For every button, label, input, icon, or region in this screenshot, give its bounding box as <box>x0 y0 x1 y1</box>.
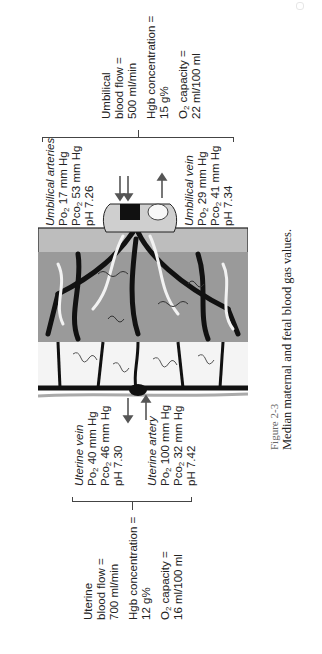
uterine-artery-title: Uterine artery <box>146 405 159 486</box>
fetal-o2-capacity-value: 22 ml/100 ml <box>190 16 203 119</box>
umbilical-summary: Umbilical blood flow = 500 ml/min Hgb co… <box>100 16 203 119</box>
uterine-vein-values: Uterine vein Po2 40 mm Hg Pco2 46 mm Hg … <box>73 405 125 486</box>
fetal-hgb-value: 15 g% <box>158 16 171 119</box>
figure-caption: Figure 2-3 Median maternal and fetal blo… <box>268 229 295 450</box>
figure-page: Umbilical blood flow = 500 ml/min Hgb co… <box>0 0 322 654</box>
uterine-flow-label-2: blood flow = <box>95 517 108 620</box>
maternal-o2-capacity-label: O2 capacity = <box>159 517 172 620</box>
figure-number: Figure 2-3 <box>268 229 280 450</box>
uterine-bracket-stem <box>132 502 133 510</box>
page-corner-mark <box>296 2 304 10</box>
uterine-artery-values: Uterine artery Po2 100 mm Hg Pco2 32 mm … <box>146 405 198 486</box>
uterine-flow-value: 700 ml/min <box>108 517 121 620</box>
umbilical-flow-label-2: blood flow = <box>113 16 126 119</box>
uterine-artery-ph: pH 7.42 <box>185 405 198 486</box>
umbilical-bracket-stem <box>138 130 139 138</box>
uterine-vein-ph: pH 7.30 <box>112 405 125 486</box>
fetal-o2-capacity-label: O2 capacity = <box>177 16 190 119</box>
figure-title: Median maternal and fetal blood gas valu… <box>280 229 295 450</box>
maternal-hgb-value: 12 g% <box>140 517 153 620</box>
uterine-artery-pco2: Pco2 32 mm Hg <box>172 405 185 486</box>
umbilical-flow-label-1: Umbilical <box>100 16 113 119</box>
uterine-vein-title: Uterine vein <box>73 405 86 486</box>
uterine-artery-po2: Po2 100 mm Hg <box>159 405 172 486</box>
maternal-o2-capacity-value: 16 ml/100 ml <box>172 517 185 620</box>
umbilical-cord-stump <box>100 198 180 234</box>
uterine-vein-po2: Po2 40 mm Hg <box>86 405 99 486</box>
umbilical-flow-value: 500 ml/min <box>126 16 139 119</box>
uterine-summary: Uterine blood flow = 700 ml/min Hgb conc… <box>82 517 185 620</box>
fetal-hgb-label: Hgb concentration = <box>145 16 158 119</box>
maternal-hgb-label: Hgb concentration = <box>127 517 140 620</box>
uterine-vein-pco2: Pco2 46 mm Hg <box>99 405 112 486</box>
umbilical-flow-arrows <box>110 172 180 202</box>
uterine-flow-label-1: Uterine <box>82 517 95 620</box>
